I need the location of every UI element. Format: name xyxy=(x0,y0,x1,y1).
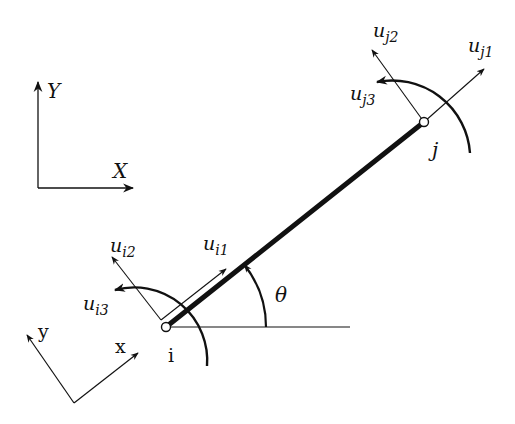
u-j1-label: uj1 xyxy=(468,34,494,60)
global-y-label: Y xyxy=(47,79,62,103)
u-j1-arrow xyxy=(424,69,484,122)
frame-element-diagram: Y X y x θ ui1 ui2 ui3 uj1 uj2 uj3 i j xyxy=(0,0,515,424)
node-j xyxy=(420,118,429,127)
u-i2-label: ui2 xyxy=(110,234,136,260)
beam-element xyxy=(166,122,424,327)
local-x-axis xyxy=(74,353,138,403)
theta-arc xyxy=(245,265,267,327)
node-j-dofs: uj1 uj2 uj3 xyxy=(350,19,494,153)
node-i-dofs: ui1 ui2 ui3 xyxy=(83,232,229,366)
u-j3-rotation-arc xyxy=(377,81,470,153)
node-j-label: j xyxy=(428,138,438,162)
u-j2-arrow xyxy=(372,50,424,122)
local-x-label: x xyxy=(115,335,126,357)
u-i1-label: ui1 xyxy=(203,232,229,258)
global-x-label: X xyxy=(111,159,128,183)
global-axes: Y X xyxy=(38,79,133,188)
node-i-label: i xyxy=(168,344,174,366)
theta-label: θ xyxy=(275,283,287,307)
local-y-label: y xyxy=(37,320,49,342)
u-j3-label: uj3 xyxy=(350,82,376,108)
u-i1-arrow xyxy=(161,269,226,320)
u-j2-label: uj2 xyxy=(373,19,399,45)
u-i3-label: ui3 xyxy=(83,292,109,318)
local-y-axis xyxy=(27,335,74,403)
node-i xyxy=(162,323,171,332)
local-axes: y x xyxy=(27,320,138,403)
